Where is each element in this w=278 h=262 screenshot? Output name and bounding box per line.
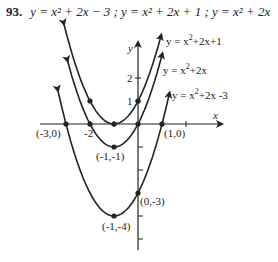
parabola-plus1 — [64, 23, 161, 124]
parabola-graph: x y 1 2 -2 (-3,0) (1,0) (-1,-1) (0,-3) (… — [0, 0, 278, 262]
curve-label-minus3: y = x2+2x -3 — [172, 87, 228, 101]
label-point-minus1-minus1: (-1,-1) — [96, 150, 125, 163]
y-axis-label: y — [127, 42, 133, 54]
x-axis-label: x — [212, 109, 218, 121]
curve-label-plus1: y = x2+2x+1 — [166, 33, 222, 47]
label-point-0-minus3: (0,-3) — [140, 195, 165, 208]
label-point-minus1-minus4: (-1,-4) — [102, 220, 131, 233]
label-point-minus3-0: (-3,0) — [36, 127, 61, 140]
y-tick-1: 1 — [127, 95, 133, 107]
y-tick-2: 2 — [127, 72, 133, 84]
label-point-1-0: (1,0) — [164, 127, 185, 140]
x-tick-minus2: -2 — [84, 127, 93, 139]
parabola-zero — [67, 55, 162, 147]
curve-label-zero: y = x2+2x — [163, 62, 207, 76]
